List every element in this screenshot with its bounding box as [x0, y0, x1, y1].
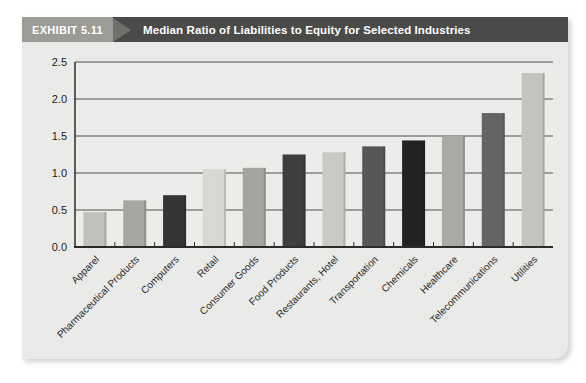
bar-shade [463, 136, 465, 247]
page: EXHIBIT 5.11 Median Ratio of Liabilities… [0, 0, 586, 383]
bar-shade [264, 168, 266, 247]
bar-consumer-goods [243, 168, 266, 247]
y-tick-label-2.0: 2.0 [52, 93, 67, 105]
bar-transportation [362, 146, 385, 247]
x-label-telecommunications: Telecommunications [428, 254, 500, 326]
arrow-right-icon [113, 18, 131, 42]
bar-shade [383, 146, 385, 247]
chart-area: 0.00.51.01.52.02.5ApparelPharmaceutical … [22, 42, 568, 359]
x-label-apparel: Apparel [69, 254, 101, 286]
chart-title: Median Ratio of Liabilities to Equity fo… [143, 24, 471, 36]
bar-shade [144, 200, 146, 247]
bar-chart: 0.00.51.01.52.02.5ApparelPharmaceutical … [22, 42, 568, 359]
bar-retail [203, 169, 226, 247]
bar-shade [423, 140, 425, 247]
bar-food-products [283, 155, 306, 248]
x-label-retail: Retail [195, 254, 221, 280]
exhibit-header: EXHIBIT 5.11 Median Ratio of Liabilities… [22, 17, 568, 42]
exhibit-panel: EXHIBIT 5.11 Median Ratio of Liabilities… [22, 17, 568, 359]
bar-computers [163, 195, 186, 247]
x-label-healthcare: Healthcare [418, 253, 460, 295]
y-tick-label-0.0: 0.0 [52, 241, 67, 253]
bar-telecommunications [482, 113, 505, 247]
bar-shade [343, 152, 345, 247]
x-label-pharmaceutical-products: Pharmaceutical Products [55, 254, 141, 340]
y-tick-label-2.5: 2.5 [52, 56, 67, 68]
bar-shade [503, 113, 505, 247]
bar-shade [304, 155, 306, 248]
bar-shade [184, 195, 186, 247]
exhibit-titlebar: Median Ratio of Liabilities to Equity fo… [113, 17, 568, 42]
bar-utilities [522, 73, 545, 247]
bar-chemicals [402, 140, 425, 247]
plot-area [75, 62, 553, 247]
x-label-computers: Computers [139, 254, 181, 296]
bar-shade [104, 212, 106, 247]
y-tick-label-0.5: 0.5 [52, 204, 67, 216]
x-label-chemicals: Chemicals [379, 254, 420, 295]
x-label-utilities: Utilities [509, 254, 540, 285]
y-tick-label-1.5: 1.5 [52, 130, 67, 142]
exhibit-badge: EXHIBIT 5.11 [22, 17, 113, 42]
bar-shade [224, 169, 226, 247]
bar-apparel [83, 212, 106, 247]
y-tick-label-1.0: 1.0 [52, 167, 67, 179]
bar-pharmaceutical-products [123, 200, 146, 247]
bar-shade [543, 73, 545, 247]
bar-healthcare [442, 136, 465, 247]
bar-restaurants-hotel [322, 152, 345, 247]
